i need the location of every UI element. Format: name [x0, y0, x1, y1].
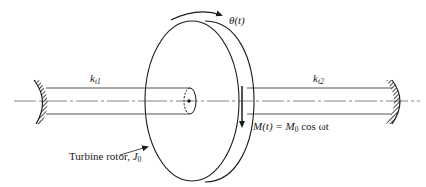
- kt1-label: kt1: [90, 72, 101, 86]
- right-fixed-support: [386, 80, 400, 124]
- turbine-rotor-label: Turbine rotor, J0: [69, 150, 142, 164]
- left-fixed-support: [34, 80, 48, 124]
- shaft-center-dot: [187, 99, 191, 103]
- moment-equation-label: M(t) = M0 cos ωt: [252, 120, 329, 134]
- kt2-label: kt2: [313, 72, 324, 86]
- theta-label: θ(t): [229, 14, 245, 27]
- theta-rotation-arrow: [171, 12, 221, 20]
- torsional-system-diagram: kt1 kt2 θ(t) M(t) = M0 cos ωt Turbine ro…: [0, 0, 426, 187]
